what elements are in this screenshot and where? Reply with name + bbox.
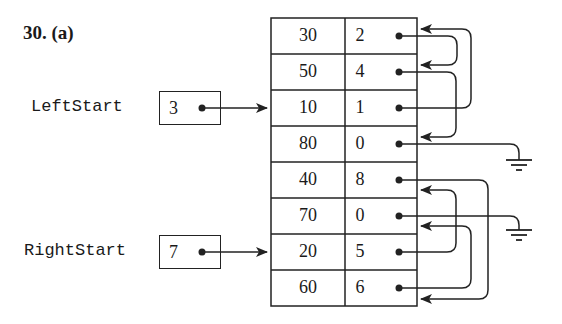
link-60-to-70 — [399, 226, 471, 288]
diagram-lines — [0, 0, 562, 324]
ground-icon — [506, 230, 532, 240]
link-50-to-80 — [399, 72, 456, 137]
ground-icon — [506, 160, 532, 170]
link-20-to-40 — [399, 190, 456, 252]
link-10-to-30 — [399, 29, 471, 108]
link-30-to-50 — [399, 36, 457, 65]
